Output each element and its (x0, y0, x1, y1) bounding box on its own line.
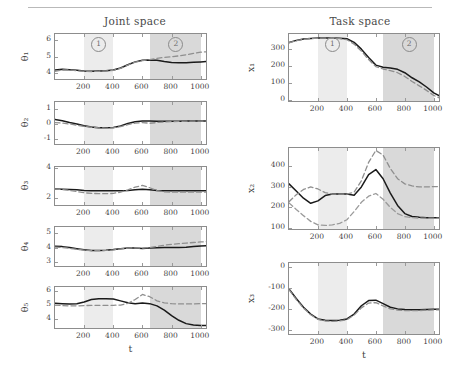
series-dashed (289, 290, 440, 322)
plot-area (288, 262, 440, 335)
x-tick-mark (405, 263, 406, 266)
x-tick-mark (318, 263, 319, 266)
figure-root: Joint space Task space 45620040060080010… (0, 0, 460, 368)
x-tick-mark (376, 331, 377, 334)
y-axis-label: x₃ (245, 290, 256, 306)
x-axis-label: t (359, 349, 369, 360)
x-tick-mark (347, 331, 348, 334)
y-tick-label: 0 (261, 262, 285, 270)
x-tick-label: 400 (331, 338, 361, 346)
series-layer (289, 263, 440, 335)
y-tick-label: -100 (261, 283, 285, 291)
y-tick-label: -200 (261, 304, 285, 312)
subplot-x₃: 0-100-200-3002004006008001000x₃t (0, 0, 460, 368)
x-tick-label: 1000 (418, 338, 448, 346)
y-tick-mark (289, 330, 292, 331)
x-tick-mark (376, 263, 377, 266)
x-tick-label: 800 (389, 338, 419, 346)
x-tick-mark (434, 331, 435, 334)
y-tick-mark (289, 288, 292, 289)
x-tick-mark (434, 263, 435, 266)
x-tick-mark (318, 331, 319, 334)
x-tick-label: 200 (302, 338, 332, 346)
y-tick-mark (289, 309, 292, 310)
x-tick-mark (347, 263, 348, 266)
x-tick-label: 600 (360, 338, 390, 346)
x-tick-mark (405, 331, 406, 334)
y-tick-label: -300 (261, 325, 285, 333)
y-tick-mark (289, 267, 292, 268)
